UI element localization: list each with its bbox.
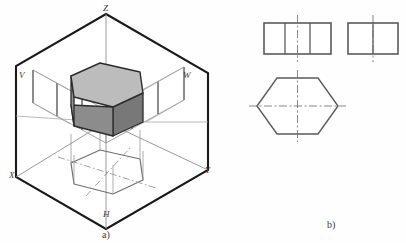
top-view — [249, 70, 346, 142]
part-b-caption: b) — [327, 219, 335, 231]
front-view — [264, 15, 331, 62]
axis-label-x: X — [8, 170, 15, 180]
hexagonal-prism-solid — [71, 63, 143, 136]
axis-label-y: Y — [205, 165, 211, 175]
plane-label-h: H — [102, 209, 110, 219]
axis-label-z: Z — [103, 3, 109, 13]
side-view — [348, 15, 398, 62]
part-a-pictorial-view: Z X Y V W H a) — [0, 0, 250, 243]
part-a-caption: a) — [102, 229, 110, 241]
technical-drawing-figure: Z X Y V W H a) b) — [0, 0, 406, 243]
